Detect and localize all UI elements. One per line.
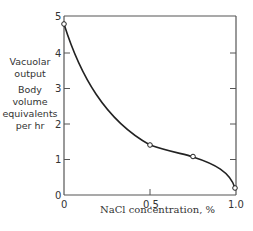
data-point [148, 143, 153, 148]
y-label-line: Vacuolar [0, 56, 60, 68]
y-axis-label: Vacuolar output [0, 56, 60, 80]
y-label-line: equivalents [0, 108, 60, 120]
data-point [233, 186, 238, 191]
x-axis-label: NaCl concentration, % [100, 204, 240, 215]
y-axis-units: Body volume equivalents per hr [0, 84, 60, 132]
y-ticks [64, 53, 236, 195]
data-curve [64, 24, 235, 188]
data-markers [62, 22, 238, 191]
data-point [62, 22, 67, 27]
svg-text:0: 0 [61, 199, 67, 210]
svg-text:5: 5 [55, 11, 61, 22]
svg-text:1: 1 [55, 154, 61, 165]
y-label-line: output [0, 68, 60, 80]
data-point [191, 154, 196, 159]
y-label-line: volume [0, 96, 60, 108]
plot-frame [64, 16, 236, 195]
y-label-line: Body [0, 84, 60, 96]
y-label-line: per hr [0, 120, 60, 132]
